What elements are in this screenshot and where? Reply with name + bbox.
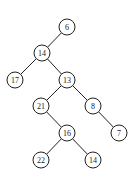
tree-node: 14 [85,152,101,168]
tree-node: 16 [59,125,75,141]
binary-tree-diagram: 61417132181672214 [0,0,135,180]
tree-node: 8 [85,98,101,114]
node-label: 6 [65,23,69,32]
node-label: 17 [11,76,19,85]
tree-edge [47,59,61,74]
tree-edge [73,86,88,101]
node-label: 13 [63,76,71,85]
tree-nodes: 61417132181672214 [7,19,127,168]
tree-node: 14 [34,45,50,61]
tree-edge [47,86,62,101]
node-label: 8 [91,102,95,111]
tree-node: 22 [33,152,49,168]
tree-edge [99,112,114,127]
node-label: 7 [117,129,121,138]
node-label: 14 [38,49,46,58]
node-label: 21 [37,102,45,111]
tree-node: 21 [33,98,49,114]
tree-edge [21,59,37,75]
tree-edge [48,33,62,47]
tree-node: 6 [59,19,75,35]
node-label: 14 [89,156,97,165]
node-label: 22 [37,156,45,165]
tree-edge [73,139,88,154]
node-label: 16 [63,129,71,138]
tree-edge [47,139,62,154]
tree-node: 17 [7,72,23,88]
tree-edge [47,112,62,127]
tree-node: 13 [59,72,75,88]
tree-node: 7 [111,125,127,141]
